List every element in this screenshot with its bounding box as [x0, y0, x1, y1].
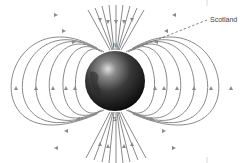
- scotland-pointer-line: [131, 20, 207, 50]
- arrow-icons-right: [153, 86, 233, 90]
- earth-magnetic-field-diagram: N S Scotland: [0, 0, 246, 163]
- arrow-icons-top: [54, 13, 176, 44]
- scotland-pointer-arrow-icon: [129, 47, 135, 51]
- north-pole-label: N: [113, 42, 117, 48]
- arrow-icons-left: [14, 86, 77, 90]
- scotland-label: Scotland: [210, 16, 237, 23]
